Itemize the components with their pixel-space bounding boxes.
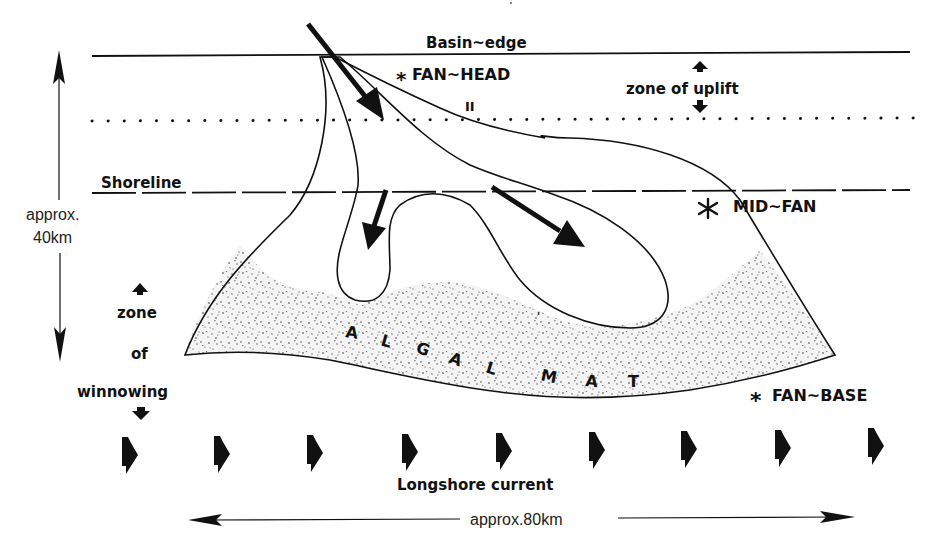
mid-fan-asterisk-icon [699,199,717,218]
longshore-arrow-icon [868,428,884,465]
basin-edge-label: Basin~edge [426,34,527,52]
arrowhead-icon [553,220,585,247]
longshore-arrow-icon [402,434,418,471]
longshore-arrow-icon [589,432,605,469]
arrowhead-icon [362,222,386,250]
winnowing-down-arrow-icon [132,407,150,420]
horizontal-scale-line-left [200,519,460,520]
west-lobe-flow-arrow [374,190,386,226]
fan-head-label: FAN~HEAD [412,65,510,84]
vertical-scale-label-2: 40km [33,229,72,246]
longshore-arrow-icon [681,431,697,468]
fan-head-flow-arrow [308,24,368,100]
mid-fan-label: MID~FAN [733,197,816,216]
longshore-arrow-icon [122,437,138,474]
longshore-arrow-icon [307,435,323,472]
algal-mat-tick: ' [537,311,540,322]
winnowing-label-1: zone [117,304,157,322]
basin-edge-line [92,52,910,56]
horizontal-scale-label: approx.80km [470,511,563,528]
winnowing-up-arrow-icon [132,283,148,295]
longshore-arrow-icon [496,433,512,470]
algal-mat-region [185,245,835,398]
fan-head-marker: * [396,67,407,91]
longshore-current-arrows [122,428,884,474]
uplift-dotted-line [92,118,915,121]
fan-diagram: A L G A L M A T ' Basin~edge * FAN~HEAD … [0,0,931,552]
svg-text:T: T [628,372,639,391]
longshore-current-label: Longshore current [397,476,553,494]
longshore-arrow-icon [214,436,230,473]
fan-base-label: FAN~BASE [772,386,867,405]
horizontal-scale-line-right [618,517,840,518]
winnowing-label-2: of [131,345,148,363]
uplift-up-arrow-icon [692,61,708,72]
fan-head-ii-mark: II [465,99,475,114]
uplift-down-arrow-icon [692,100,708,113]
longshore-arrow-icon [775,430,791,467]
fan-base-marker: * [750,388,762,413]
scan-speck [510,2,512,4]
vertical-scale-label-1: approx. [26,206,79,223]
winnowing-label-3: winnowing [77,383,168,401]
zone-of-uplift-label: zone of uplift [626,80,739,98]
shoreline-label: Shoreline [101,174,182,192]
